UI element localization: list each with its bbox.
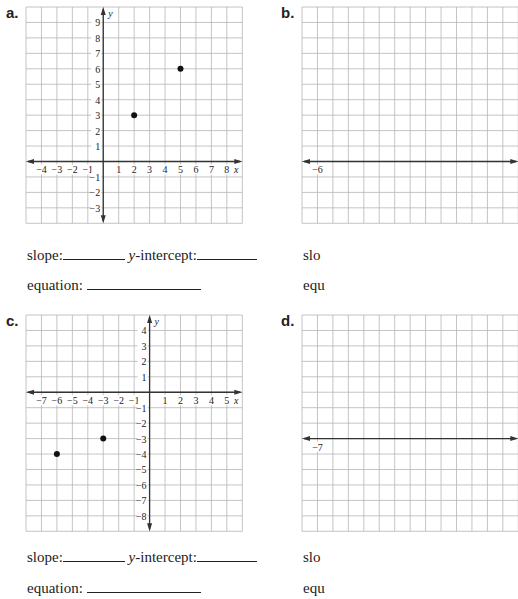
problem-d-label: d.: [281, 312, 294, 329]
svg-text:3: 3: [142, 341, 147, 352]
svg-text:5: 5: [224, 395, 229, 406]
svg-text:8: 8: [224, 164, 229, 175]
svg-text:1: 1: [116, 164, 121, 175]
svg-text:4: 4: [142, 325, 147, 336]
equation-label: equ: [303, 580, 325, 596]
svg-text:−3: −3: [52, 164, 63, 175]
equation-label: equation:: [27, 277, 83, 293]
svg-text:y: y: [154, 316, 160, 327]
problem-a-label: a.: [6, 4, 19, 21]
svg-text:−2: −2: [90, 187, 101, 198]
intercept-label: -intercept:: [135, 549, 197, 565]
svg-text:8: 8: [95, 33, 100, 44]
svg-text:−1: −1: [136, 403, 147, 414]
svg-text:2: 2: [142, 356, 147, 367]
svg-text:5: 5: [95, 79, 100, 90]
svg-text:x: x: [233, 164, 239, 175]
coordinate-grid-a: −4−3−2−112345678987654321−1−2−3xy: [26, 7, 242, 223]
slope-line-a: slope: y-intercept:: [27, 247, 257, 264]
svg-text:−3: −3: [136, 434, 147, 445]
slope-label: slope:: [27, 549, 63, 565]
slope-line-c: slope: y-intercept:: [27, 549, 257, 566]
svg-text:−3: −3: [90, 203, 101, 214]
svg-text:1: 1: [142, 372, 147, 383]
slope-line-b: slo: [303, 247, 321, 264]
svg-text:6: 6: [193, 164, 198, 175]
equation-label: equation:: [27, 580, 83, 596]
svg-text:1: 1: [163, 395, 168, 406]
svg-text:−3: −3: [98, 395, 109, 406]
svg-text:5: 5: [178, 164, 183, 175]
svg-text:−8: −8: [136, 511, 147, 522]
svg-text:−2: −2: [136, 418, 147, 429]
svg-text:−7: −7: [136, 495, 147, 506]
svg-text:7: 7: [209, 164, 214, 175]
problem-c-label: c.: [6, 312, 19, 329]
svg-text:3: 3: [95, 110, 100, 121]
svg-text:4: 4: [95, 95, 100, 106]
svg-text:−6: −6: [136, 480, 147, 491]
intercept-answer-blank[interactable]: [197, 560, 257, 562]
svg-text:−1: −1: [90, 172, 101, 183]
svg-text:−4: −4: [82, 395, 93, 406]
svg-text:2: 2: [132, 164, 137, 175]
equation-line-b: equ: [303, 277, 325, 294]
svg-text:−2: −2: [67, 164, 78, 175]
intercept-label: -intercept:: [135, 247, 197, 263]
svg-text:9: 9: [95, 17, 100, 28]
coordinate-grid-b: −6: [302, 7, 518, 223]
svg-text:−4: −4: [136, 449, 147, 460]
svg-text:6: 6: [95, 64, 100, 75]
svg-text:3: 3: [193, 395, 198, 406]
equation-label: equ: [303, 277, 325, 293]
svg-text:4: 4: [163, 164, 168, 175]
equation-answer-blank[interactable]: [87, 288, 201, 290]
svg-text:−5: −5: [67, 395, 78, 406]
slope-label: slo: [303, 549, 321, 565]
slope-label: slope:: [27, 247, 63, 263]
svg-text:−7: −7: [36, 395, 47, 406]
equation-answer-blank[interactable]: [87, 591, 201, 593]
svg-text:2: 2: [178, 395, 183, 406]
equation-line-c: equation:: [27, 580, 201, 597]
slope-answer-blank[interactable]: [63, 258, 125, 260]
equation-line-d: equ: [303, 580, 325, 597]
svg-text:−6: −6: [52, 395, 63, 406]
svg-text:−7: −7: [312, 442, 323, 453]
svg-text:−6: −6: [312, 164, 323, 175]
svg-text:3: 3: [147, 164, 152, 175]
svg-text:x: x: [233, 395, 239, 406]
svg-text:y: y: [107, 8, 113, 19]
svg-text:2: 2: [95, 126, 100, 137]
svg-text:−2: −2: [113, 395, 124, 406]
svg-text:4: 4: [209, 395, 214, 406]
intercept-answer-blank[interactable]: [197, 258, 257, 260]
equation-line-a: equation:: [27, 277, 201, 294]
slope-label: slo: [303, 247, 321, 263]
slope-answer-blank[interactable]: [63, 560, 125, 562]
coordinate-grid-c: −7−6−5−4−3−2−1123454321−1−2−3−4−5−6−7−8x…: [26, 315, 242, 531]
svg-text:7: 7: [95, 48, 100, 59]
coordinate-grid-d: −7: [302, 315, 518, 531]
svg-text:−4: −4: [36, 164, 47, 175]
slope-line-d: slo: [303, 549, 321, 566]
problem-b-label: b.: [281, 4, 294, 21]
svg-text:−5: −5: [136, 464, 147, 475]
svg-text:1: 1: [95, 141, 100, 152]
